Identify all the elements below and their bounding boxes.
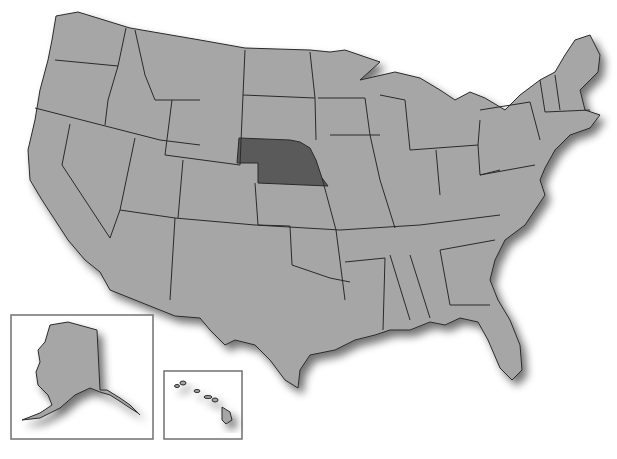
us-map bbox=[0, 0, 617, 459]
hawaii-inset-frame bbox=[164, 371, 242, 439]
hawaii-island-molokai bbox=[204, 396, 212, 399]
inset-alaska bbox=[11, 315, 153, 439]
hawaii-island-oahu bbox=[194, 390, 200, 393]
hawaii-island-kauai bbox=[180, 381, 186, 385]
hawaii-island-niihau bbox=[175, 385, 180, 388]
hawaii-island-maui bbox=[212, 398, 218, 402]
inset-hawaii bbox=[164, 371, 242, 439]
